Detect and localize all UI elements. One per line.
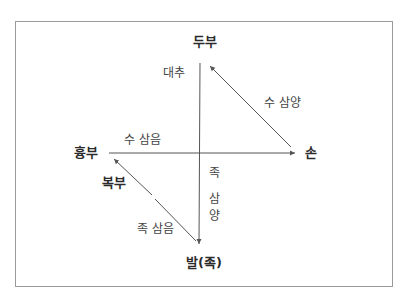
label-jok-samyang: 족 삼 양 xyxy=(207,165,221,225)
node-head: 두부 xyxy=(193,35,217,48)
label-jok-sameum: 족 삼음 xyxy=(137,223,174,235)
node-hand: 손 xyxy=(305,146,317,159)
label-su-sameum: 수 삼음 xyxy=(124,134,161,146)
node-foot: 발(족) xyxy=(186,256,222,269)
node-abdomen: 복부 xyxy=(102,176,126,189)
label-su-samyang: 수 삼양 xyxy=(264,97,301,109)
node-chest: 흉부 xyxy=(74,146,98,159)
label-daechu: 대추 xyxy=(163,67,185,79)
